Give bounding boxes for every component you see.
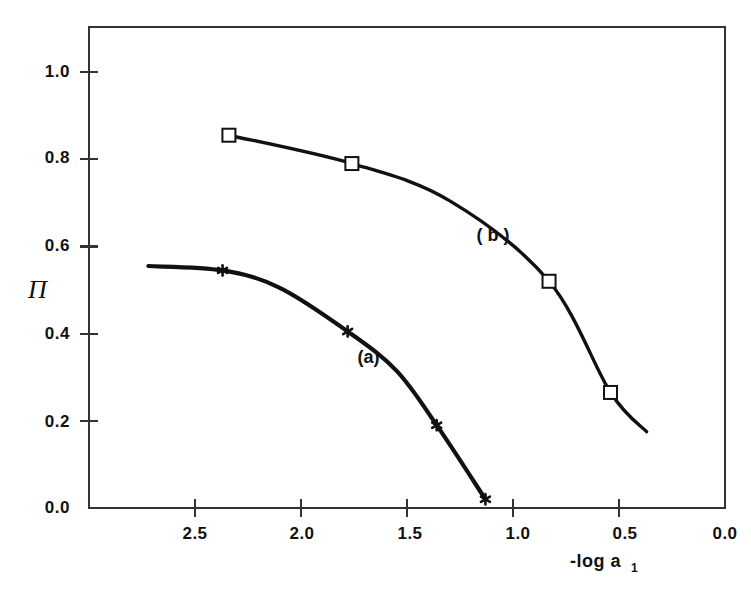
ytick-label-0-6: 0.6 xyxy=(18,236,70,256)
data-marker-square xyxy=(604,386,617,399)
curve-b xyxy=(229,135,647,431)
chart-figure: 1.0 0.8 0.6 0.4 0.2 0.0 2.5 2.0 1.5 1.0 … xyxy=(0,0,751,592)
xtick-label-1-5: 1.5 xyxy=(380,524,440,544)
x-axis-title-text: -log a xyxy=(570,551,621,571)
x-axis-title-subscript: 1 xyxy=(631,561,638,575)
xtick-label-1-0: 1.0 xyxy=(488,524,548,544)
xtick-label-2-0: 2.0 xyxy=(272,524,332,544)
ytick-label-0-2: 0.2 xyxy=(18,412,70,432)
ytick-label-0-0: 0.0 xyxy=(18,498,70,518)
xtick-label-0-0: 0.0 xyxy=(695,524,751,544)
xtick-label-0-5: 0.5 xyxy=(595,524,655,544)
ytick-label-0-8: 0.8 xyxy=(18,148,70,168)
xtick-label-2-5: 2.5 xyxy=(165,524,225,544)
curve-a xyxy=(148,266,485,499)
ytick-label-0-4: 0.4 xyxy=(18,324,70,344)
data-marker-square xyxy=(543,275,556,288)
ytick-label-1-0: 1.0 xyxy=(18,62,70,82)
axis-ticks xyxy=(80,72,619,517)
x-axis-title: -log a1 xyxy=(570,551,638,575)
data-marker-square xyxy=(345,157,358,170)
data-curves xyxy=(148,135,646,499)
plot-area xyxy=(0,0,751,592)
curve-label-a: (a) xyxy=(357,347,379,368)
y-axis-title: Π xyxy=(28,275,47,305)
curve-label-b: ( b ) xyxy=(477,225,510,246)
data-marker-square xyxy=(222,129,235,142)
